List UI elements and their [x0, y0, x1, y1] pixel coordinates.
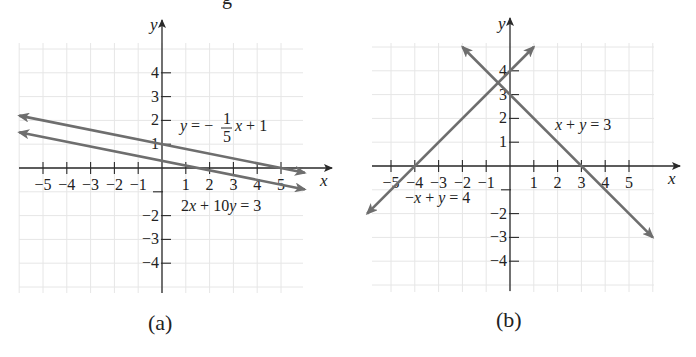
y-tick-label: 2 — [499, 109, 507, 126]
y-axis-label: y — [148, 15, 158, 34]
x-tick-label: 3 — [229, 176, 237, 193]
figure: g yx−5−4−3−2−1123454321−2−3−4 yx−5−4−3−2… — [0, 0, 696, 357]
x-tick-label: 2 — [206, 176, 214, 193]
figure-svg: g yx−5−4−3−2−1123454321−2−3−4 yx−5−4−3−2… — [0, 0, 696, 357]
y-tick-label: 3 — [151, 88, 159, 105]
x-tick-label: 1 — [182, 176, 190, 193]
x-tick-label: −5 — [34, 176, 51, 193]
panel-a-graph: yx−5−4−3−2−1123454321−2−3−4 — [19, 15, 332, 293]
panel-a-equation-2-label: 2x + 10y = 3 — [181, 197, 261, 215]
x-axis-label: x — [319, 171, 328, 190]
panel-b-equation-1-label: x + y = 3 — [554, 116, 611, 134]
x-tick-label: −4 — [58, 176, 75, 193]
x-tick-label: −1 — [478, 174, 495, 191]
header-fragment: g — [222, 0, 232, 9]
fraction-numerator: 1 — [223, 110, 231, 127]
fraction-denominator: 5 — [223, 128, 231, 145]
y-tick-label: −3 — [490, 228, 507, 245]
x-tick-label: 2 — [554, 174, 562, 191]
y-tick-label: 1 — [499, 133, 507, 150]
y-tick-label: 4 — [151, 64, 159, 81]
y-tick-label: −4 — [142, 254, 159, 271]
panel-a-caption: (a) — [148, 310, 172, 335]
panel-a-equation-1-label: y = − 1 5 x + 1 — [178, 110, 267, 145]
svg-text:y = −: y = − — [178, 117, 213, 135]
x-tick-label: 5 — [625, 174, 633, 191]
y-tick-label: −2 — [490, 205, 507, 222]
panel-b-equation-2-label: −x + y = 4 — [405, 189, 470, 207]
y-tick-label: −3 — [142, 230, 159, 247]
x-tick-label: −1 — [130, 176, 147, 193]
x-tick-label: 3 — [577, 174, 585, 191]
x-tick-label: 1 — [530, 174, 538, 191]
y-tick-label: −2 — [142, 207, 159, 224]
x-axis-label: x — [667, 169, 676, 188]
panel-b-caption: (b) — [496, 307, 522, 332]
y-tick-label: −4 — [490, 252, 507, 269]
x-tick-label: −3 — [82, 176, 99, 193]
y-tick-label: 2 — [151, 111, 159, 128]
x-tick-label: −2 — [106, 176, 123, 193]
panel-b-graph: yx−5−4−3−2−1123454321−2−3−4 — [367, 14, 680, 292]
svg-text:x + 1: x + 1 — [234, 117, 267, 134]
y-axis-label: y — [496, 14, 506, 33]
